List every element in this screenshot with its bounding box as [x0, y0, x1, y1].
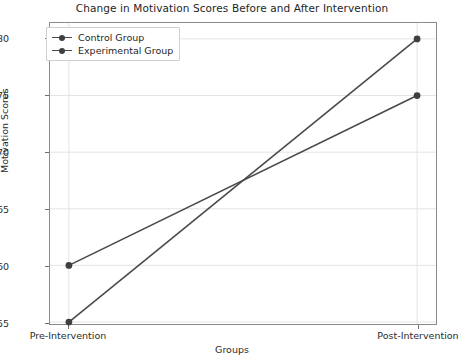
x-tick-label-post: Post-Intervention — [377, 330, 458, 341]
y-axis-label: Motivation Scores — [0, 88, 10, 173]
data-point-experimental-pre — [66, 319, 73, 326]
legend-label-control-group: Control Group — [78, 32, 144, 43]
y-tick-label-70: 70 — [0, 147, 9, 158]
legend-item-control-group[interactable]: Control Group — [51, 31, 173, 44]
data-point-experimental-post — [414, 36, 421, 43]
legend-item-experimental-group[interactable]: Experimental Group — [51, 44, 173, 57]
x-axis-label: Groups — [0, 344, 464, 355]
x-tick-label-pre: Pre-Intervention — [30, 330, 107, 341]
plot-area — [49, 22, 437, 325]
data-point-control-post — [414, 92, 421, 99]
data-point-control-pre — [66, 262, 73, 269]
y-tick-label-60: 60 — [0, 261, 9, 272]
chart-legend: Control Group Experimental Group — [46, 27, 180, 61]
series-line-experimental-group — [69, 39, 417, 322]
y-tick-label-75: 75 — [0, 90, 9, 101]
chart-figure: Change in Motivation Scores Before and A… — [0, 0, 464, 361]
legend-marker-icon-experimental-group — [51, 46, 73, 56]
x-tick-mark-post — [418, 325, 419, 329]
chart-title: Change in Motivation Scores Before and A… — [0, 2, 464, 14]
y-tick-label-65: 65 — [0, 204, 9, 215]
legend-label-experimental-group: Experimental Group — [78, 45, 173, 56]
x-tick-mark-pre — [68, 325, 69, 329]
legend-marker-icon-control-group — [51, 33, 73, 43]
y-tick-label-80: 80 — [0, 33, 9, 44]
series-layer — [50, 23, 436, 324]
y-tick-label-55: 55 — [0, 318, 9, 329]
